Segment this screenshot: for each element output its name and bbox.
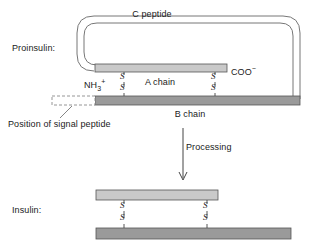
c-terminus-main: COO <box>231 67 252 77</box>
insulin-a-chain-bar <box>96 190 218 200</box>
proinsulin-processing-diagram: C peptide Proinsulin: A chain B chain In… <box>0 0 312 250</box>
n-terminus-main: NH <box>84 80 97 90</box>
a-chain-label: A chain <box>145 78 175 87</box>
sulfur-label-proinsulin-left-top: S <box>120 71 125 81</box>
b-chain-rect <box>95 96 300 105</box>
signal-peptide-leader-line <box>60 106 72 118</box>
signal-peptide-dashed-rect <box>52 96 95 105</box>
signal-peptide-box <box>52 96 95 118</box>
signal-peptide-label: Position of signal peptide <box>8 120 111 129</box>
sulfur-label-insulin-right-bottom: S <box>203 212 208 222</box>
insulin-b-chain-rect <box>96 228 291 239</box>
n-terminus-subscript: 3 <box>97 85 101 92</box>
sulfur-label-proinsulin-right-top: S <box>211 71 216 81</box>
a-chain-rect <box>95 64 227 72</box>
b-chain-label: B chain <box>175 110 206 119</box>
proinsulin-label: Proinsulin: <box>12 44 55 53</box>
c-peptide-label: C peptide <box>132 10 171 19</box>
insulin-label: Insulin: <box>12 206 41 215</box>
insulin-b-chain-bar <box>96 228 291 239</box>
c-terminus-label: COO− <box>231 65 256 77</box>
c-terminus-charge: − <box>252 65 256 72</box>
sulfur-label-insulin-left-bottom: S <box>120 212 125 222</box>
c-peptide-outer-line <box>77 16 300 99</box>
insulin-a-chain-rect <box>96 190 218 200</box>
sulfur-label-insulin-right-top: S <box>203 200 208 210</box>
processing-label: Processing <box>186 143 232 152</box>
c-peptide-loop <box>77 16 300 99</box>
c-peptide-inner-line <box>84 23 293 99</box>
sulfur-label-proinsulin-right-bottom: S <box>211 82 216 92</box>
sulfur-label-insulin-left-top: S <box>120 200 125 210</box>
n-terminus-charge: + <box>101 78 105 85</box>
proinsulin-b-chain-bar <box>95 96 300 105</box>
processing-arrow <box>179 128 187 180</box>
sulfur-label-proinsulin-left-bottom: S <box>120 82 125 92</box>
n-terminus-label: NH3+ <box>84 78 105 92</box>
proinsulin-a-chain-bar <box>95 64 227 72</box>
